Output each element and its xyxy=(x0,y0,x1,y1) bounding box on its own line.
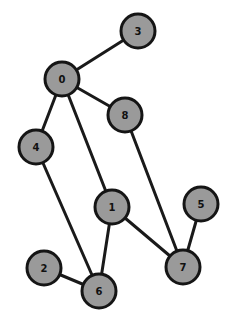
node-label: 4 xyxy=(33,142,40,153)
node-6: 6 xyxy=(82,274,116,308)
edge-0-1 xyxy=(62,79,112,207)
node-label: 5 xyxy=(198,199,205,210)
node-5: 5 xyxy=(184,187,218,221)
node-2: 2 xyxy=(27,251,61,285)
node-label: 7 xyxy=(180,262,187,273)
node-7: 7 xyxy=(166,250,200,284)
node-label: 6 xyxy=(96,286,103,297)
node-0: 0 xyxy=(45,62,79,96)
node-8: 8 xyxy=(108,98,142,132)
node-3: 3 xyxy=(121,14,155,48)
node-label: 3 xyxy=(135,26,142,37)
node-4: 4 xyxy=(19,130,53,164)
graph-canvas: 012345678 xyxy=(0,0,237,328)
node-label: 8 xyxy=(122,110,129,121)
node-label: 1 xyxy=(109,202,116,213)
node-1: 1 xyxy=(95,190,129,224)
node-label: 2 xyxy=(41,263,48,274)
node-label: 0 xyxy=(59,74,66,85)
nodes-layer: 012345678 xyxy=(19,14,218,308)
